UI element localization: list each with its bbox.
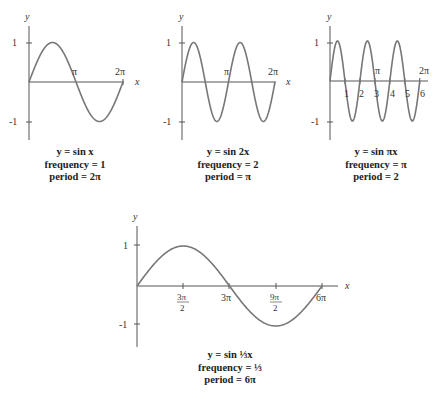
svg-text:2: 2: [180, 303, 185, 313]
x-tick-9pi-over-2: 9π 2: [270, 292, 282, 313]
x-axis-label: x: [344, 280, 350, 291]
x-tick-2pi: 2π: [419, 65, 429, 76]
x-tick-pi: π: [72, 66, 77, 77]
svg-text:3π: 3π: [177, 292, 187, 302]
y-tick-neg1: -1: [311, 116, 319, 127]
x-tick-2pi: 2π: [268, 66, 278, 77]
x-tick-6pi: 6π: [316, 292, 326, 303]
y-tick-1: 1: [166, 37, 171, 48]
y-axis-label: y: [326, 11, 332, 22]
period: period = 6π: [170, 374, 290, 387]
x-tick-3pi-over-2: 3π 2: [177, 292, 189, 313]
panel-sinx: y 1 -1 π 2π x: [9, 11, 140, 140]
panel-sinx3: y 1 -1 3π 2 3π 9π 2 6π x: [119, 211, 350, 347]
y-tick-neg1: -1: [119, 319, 127, 330]
x-num-tick-2: 2: [359, 88, 364, 99]
y-tick-1: 1: [314, 37, 319, 48]
x-tick-pi: π: [224, 66, 229, 77]
y-tick-1: 1: [12, 37, 17, 48]
panel-sinpix: y 1 -1 π 2π 1 2 3 4 5 6: [311, 11, 429, 140]
caption-sinx3: y = sin ⅓x frequency = ⅓ period = 6π: [170, 349, 290, 387]
equation: y = sin ⅓x: [170, 349, 290, 362]
x-tick-3pi: 3π: [221, 292, 231, 303]
y-tick-neg1: -1: [163, 116, 171, 127]
svg-text:9π: 9π: [270, 292, 280, 302]
x-tick-pi: π: [375, 65, 380, 76]
caption-sinx: y = sin x frequency = 1 period = 2π: [15, 146, 135, 184]
period: period = π: [168, 171, 288, 184]
frequency: frequency = ⅓: [170, 362, 290, 375]
y-axis-label: y: [178, 11, 184, 22]
frequency: frequency = π: [316, 159, 436, 172]
y-axis-label: y: [132, 211, 138, 222]
sine-graphs-figure: y 1 -1 π 2π x y 1 -1 π 2π x y 1 -1 π 2π …: [0, 0, 440, 399]
y-axis-label: y: [24, 11, 30, 22]
frequency: frequency = 1: [15, 159, 135, 172]
y-tick-1: 1: [123, 240, 128, 251]
period: period = 2: [316, 171, 436, 184]
x-tick-2pi: 2π: [115, 66, 125, 77]
x-num-tick-1: 1: [344, 88, 349, 99]
equation: y = sin 2x: [168, 146, 288, 159]
equation: y = sin x: [15, 146, 135, 159]
x-num-tick-3: 3: [374, 88, 379, 99]
caption-sinpix: y = sin πx frequency = π period = 2: [316, 146, 436, 184]
x-num-tick-5: 5: [405, 88, 410, 99]
x-num-tick-6: 6: [420, 88, 425, 99]
svg-text:2: 2: [273, 303, 278, 313]
caption-sin2x: y = sin 2x frequency = 2 period = π: [168, 146, 288, 184]
y-tick-neg1: -1: [9, 116, 17, 127]
x-num-tick-4: 4: [390, 88, 395, 99]
frequency: frequency = 2: [168, 159, 288, 172]
x-axis-label: x: [285, 76, 291, 87]
x-axis-label: x: [134, 76, 140, 87]
period: period = 2π: [15, 171, 135, 184]
panel-sin2x: y 1 -1 π 2π x: [163, 11, 291, 140]
equation: y = sin πx: [316, 146, 436, 159]
